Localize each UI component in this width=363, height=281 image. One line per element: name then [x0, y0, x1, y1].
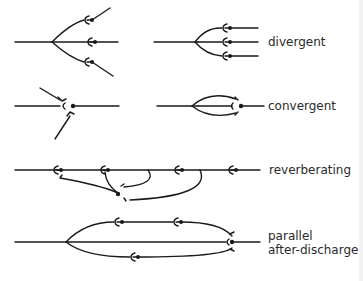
- divergent-circuit-a: [15, 8, 118, 76]
- convergent-circuit-a: [15, 88, 119, 139]
- convergent-circuit-b: [157, 96, 264, 116]
- page-edge-shadow: [359, 0, 363, 281]
- label-convergent: convergent: [268, 99, 336, 113]
- divergent-circuit-b: [154, 24, 258, 60]
- label-divergent: divergent: [268, 35, 325, 49]
- label-reverberating: reverberating: [269, 163, 351, 177]
- parallel-after-discharge-circuit: [15, 218, 260, 261]
- label-after-discharge: after-discharge: [268, 243, 358, 257]
- label-parallel: parallel: [268, 229, 313, 243]
- reverberating-circuit: [15, 166, 260, 201]
